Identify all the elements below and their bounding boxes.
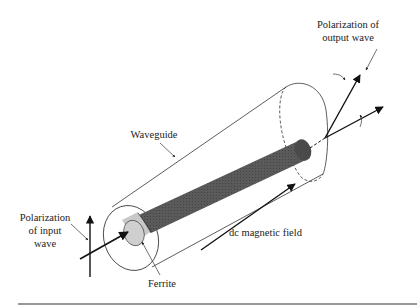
input-polarization-label-2: of input bbox=[29, 225, 62, 236]
output-polarization-arrows bbox=[325, 49, 383, 138]
waveguide-label: Waveguide bbox=[131, 129, 178, 140]
output-polarization-label-1: Polarization of bbox=[317, 19, 380, 30]
input-polarization-label-1: Polarization bbox=[20, 212, 71, 223]
ferrite-label: Ferrite bbox=[148, 278, 176, 289]
faraday-rotator-diagram: Polarization of output wave Waveguide Po… bbox=[0, 0, 417, 307]
output-polarization-label-2: output wave bbox=[322, 32, 374, 43]
input-polarization-pointer bbox=[71, 224, 88, 240]
waveguide-cylinder bbox=[95, 83, 328, 277]
dc-field-label: dc magnetic field bbox=[229, 227, 303, 238]
output-wave-dashed bbox=[310, 138, 325, 148]
waveguide-pointer bbox=[160, 143, 175, 157]
input-polarization-label-3: wave bbox=[34, 238, 56, 249]
